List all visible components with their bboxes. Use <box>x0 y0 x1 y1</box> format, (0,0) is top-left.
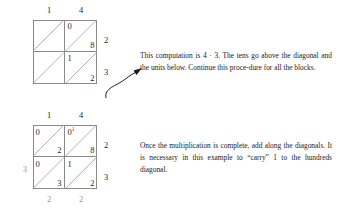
bottom-grid-right-label-0: 2 <box>104 141 108 150</box>
cell-upper-digit: 01 <box>68 127 75 136</box>
top-cell-r1c0 <box>33 52 65 84</box>
top-lattice-grid: 0 8 1 2 1 4 2 3 <box>33 20 97 84</box>
cell-upper-digit: 1 <box>68 159 72 168</box>
cell-lower-digit: 2 <box>90 74 94 83</box>
diagonal-line <box>33 52 64 84</box>
top-grid-right-label-0: 2 <box>104 36 108 45</box>
bottom-grid-col-header-0: 1 <box>47 111 51 120</box>
bottom-grid-bottom-label-1: 2 <box>79 195 83 204</box>
top-cell-r0c1: 0 8 <box>65 20 97 52</box>
cell-upper-digit: 0 <box>68 22 72 31</box>
bottom-lattice-grid: 0 2 01 8 0 3 1 2 1 4 <box>33 125 97 189</box>
cell-lower-digit: 2 <box>90 179 94 188</box>
cell-lower-digit: 2 <box>57 146 61 155</box>
top-grid-col-header-1: 4 <box>79 6 83 15</box>
bottom-grid-right-label-1: 3 <box>104 173 108 182</box>
bottom-cell-r0c0: 0 2 <box>33 125 65 157</box>
cell-lower-digit: 8 <box>90 146 94 155</box>
top-cell-r1c1: 1 2 <box>65 52 97 84</box>
bottom-cell-r1c0: 0 3 <box>33 157 65 189</box>
cell-upper-digit: 1 <box>68 54 72 63</box>
cell-upper-digit: 0 <box>36 127 40 136</box>
bottom-grid-bottom-label-0: 2 <box>47 195 51 204</box>
bottom-cell-r1c1: 1 2 <box>65 157 97 189</box>
diagonal-line <box>33 20 64 51</box>
bottom-grid-left-label: 3 <box>23 165 27 174</box>
carry-digit: 1 <box>72 126 75 132</box>
cell-upper-digit: 0 <box>36 159 40 168</box>
paragraph-one: This computation is 4 · 3. The tens go a… <box>140 50 332 74</box>
figure-page: 0 8 1 2 1 4 2 3 This computa <box>0 0 338 208</box>
bottom-grid-col-header-1: 4 <box>79 111 83 120</box>
cell-lower-digit: 8 <box>90 41 94 50</box>
paragraph-two: Once the multiplication is complete, add… <box>140 140 332 176</box>
top-cell-r0c0 <box>33 20 65 52</box>
top-grid-col-header-0: 1 <box>47 6 51 15</box>
cell-lower-digit: 3 <box>57 179 61 188</box>
bottom-cell-r0c1: 01 8 <box>65 125 97 157</box>
